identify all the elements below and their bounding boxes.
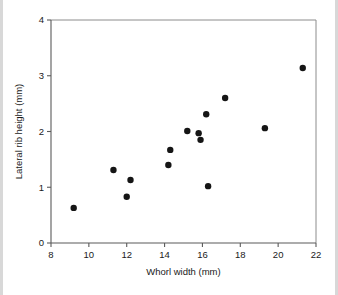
x-tick-label: 18 (235, 249, 246, 260)
data-point (222, 95, 228, 101)
data-point (165, 162, 171, 168)
x-tick-label: 16 (197, 249, 208, 260)
plot-canvas: 01234810121416182022Whorl width (mm)Late… (0, 0, 338, 295)
data-point (124, 194, 130, 200)
y-tick-label: 3 (39, 70, 44, 81)
y-tick-label: 1 (39, 182, 44, 193)
scatter-plot-figure: 01234810121416182022Whorl width (mm)Late… (0, 0, 338, 295)
y-tick-label: 0 (39, 237, 44, 248)
x-tick-label: 8 (48, 249, 53, 260)
data-point (127, 177, 133, 183)
data-point (203, 111, 209, 117)
y-tick-label: 2 (39, 126, 44, 137)
x-axis-title: Whorl width (mm) (146, 266, 220, 277)
x-tick-label: 20 (273, 249, 284, 260)
plot-frame-top-right (51, 20, 316, 243)
data-point (110, 167, 116, 173)
x-tick-label: 22 (311, 249, 322, 260)
y-tick-label: 4 (39, 14, 44, 25)
data-point (300, 65, 306, 71)
y-axis-title: Lateral rib height (mm) (13, 84, 24, 180)
x-tick-label: 14 (159, 249, 170, 260)
data-point (205, 183, 211, 189)
data-point (197, 137, 203, 143)
data-point (167, 147, 173, 153)
data-point (262, 125, 268, 131)
data-point (184, 128, 190, 134)
x-tick-label: 12 (121, 249, 132, 260)
x-tick-label: 10 (84, 249, 95, 260)
data-point (71, 205, 77, 211)
data-point (195, 130, 201, 136)
